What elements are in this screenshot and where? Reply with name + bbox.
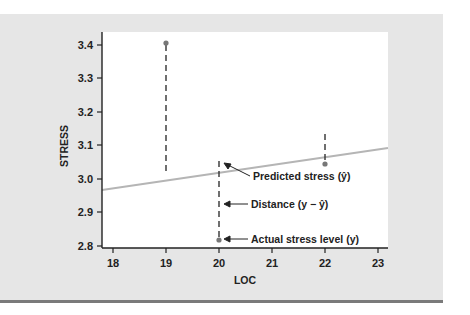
svg-text:19: 19 [160, 257, 172, 269]
y-tick-labels: 3.4 3.3 3.2 3.1 3.0 2.9 2.8 [78, 39, 94, 252]
y-ticks [97, 45, 102, 246]
svg-text:3.2: 3.2 [78, 106, 93, 118]
svg-text:20: 20 [213, 257, 225, 269]
svg-text:3.4: 3.4 [78, 39, 94, 51]
svg-text:2.9: 2.9 [78, 206, 93, 218]
svg-text:3.0: 3.0 [78, 173, 93, 185]
svg-text:22: 22 [319, 257, 331, 269]
chart: 3.4 3.3 3.2 3.1 3.0 2.9 2.8 18 19 20 21 … [0, 0, 470, 315]
y-axis-title: STRESS [58, 125, 70, 167]
svg-text:3.1: 3.1 [78, 139, 93, 151]
annotation-distance: Distance (y − ŷ) [251, 198, 328, 210]
svg-text:2.8: 2.8 [78, 240, 93, 252]
data-point [322, 161, 327, 166]
x-ticks [113, 248, 378, 253]
data-point [163, 40, 168, 45]
svg-text:21: 21 [266, 257, 278, 269]
data-point [216, 237, 221, 242]
x-axis-title: LOC [234, 274, 257, 286]
svg-text:23: 23 [372, 257, 384, 269]
plot-area [102, 32, 388, 248]
annotation-actual: Actual stress level (y) [251, 233, 359, 245]
svg-text:3.3: 3.3 [78, 72, 93, 84]
x-tick-labels: 18 19 20 21 22 23 [107, 257, 384, 269]
svg-text:18: 18 [107, 257, 119, 269]
annotation-predicted: Predicted stress (ŷ) [253, 170, 350, 182]
